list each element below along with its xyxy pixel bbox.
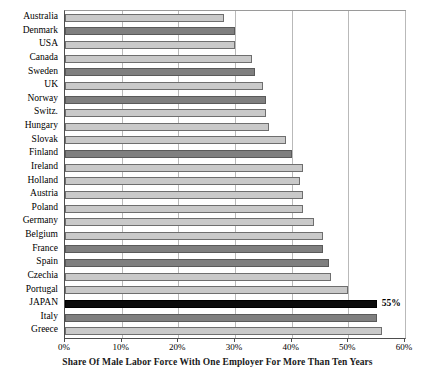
bar-row	[65, 202, 405, 216]
plot-area: 55%	[64, 10, 406, 339]
axis-tick-label: 50%	[339, 342, 356, 352]
bar-row	[65, 175, 405, 189]
bar-row	[65, 79, 405, 93]
category-label: Australia	[0, 10, 62, 24]
bar	[65, 327, 382, 335]
bar-row	[65, 106, 405, 120]
axis-tick-label: 40%	[282, 342, 299, 352]
bar-row	[65, 311, 405, 325]
bar	[65, 150, 292, 158]
bar	[65, 164, 303, 172]
bar	[65, 82, 263, 90]
category-label: Portugal	[0, 283, 62, 297]
category-label: Hungary	[0, 119, 62, 133]
bar-row	[65, 25, 405, 39]
bar-row	[65, 120, 405, 134]
category-label: Belgium	[0, 228, 62, 242]
bar	[65, 177, 300, 185]
bar-row	[65, 134, 405, 148]
bar-row: 55%	[65, 297, 405, 311]
category-label: USA	[0, 37, 62, 51]
bar	[65, 109, 266, 117]
bar	[65, 136, 286, 144]
category-label: JAPAN	[0, 296, 62, 310]
category-label: France	[0, 242, 62, 256]
bar	[65, 300, 377, 308]
bar	[65, 55, 252, 63]
bar-row	[65, 188, 405, 202]
bar-row	[65, 270, 405, 284]
axis-tick-label: 20%	[169, 342, 186, 352]
category-label: Finland	[0, 146, 62, 160]
category-label: Greece	[0, 323, 62, 337]
bar	[65, 286, 348, 294]
axis-tick-label: 0%	[58, 342, 70, 352]
bar-row	[65, 229, 405, 243]
bar-row	[65, 243, 405, 257]
bar	[65, 96, 266, 104]
bar-row	[65, 256, 405, 270]
gridline	[405, 11, 406, 338]
bar	[65, 232, 323, 240]
category-label: Austria	[0, 187, 62, 201]
category-label: Czechia	[0, 269, 62, 283]
bar	[65, 245, 323, 253]
bar-row	[65, 284, 405, 298]
category-label: Canada	[0, 51, 62, 65]
bar	[65, 123, 269, 131]
axis-tick-label: 60%	[396, 342, 413, 352]
category-label: UK	[0, 78, 62, 92]
bar-row	[65, 147, 405, 161]
axis-tick-label: 10%	[112, 342, 129, 352]
axis-title: Share Of Male Labor Force With One Emplo…	[0, 357, 435, 367]
bar	[65, 41, 235, 49]
category-label: Ireland	[0, 160, 62, 174]
category-axis-labels: AustraliaDenmarkUSACanadaSwedenUKNorwayS…	[0, 10, 62, 337]
category-label: Spain	[0, 255, 62, 269]
bar	[65, 191, 303, 199]
bar-row	[65, 161, 405, 175]
bar-row	[65, 215, 405, 229]
bar-chart: AustraliaDenmarkUSACanadaSwedenUKNorwayS…	[0, 0, 435, 385]
category-label: Slovak	[0, 133, 62, 147]
category-label: Sweden	[0, 65, 62, 79]
axis-tick-label: 30%	[226, 342, 243, 352]
bar	[65, 218, 314, 226]
bar-value-label: 55%	[382, 299, 401, 309]
category-label: Germany	[0, 214, 62, 228]
category-label: Switz.	[0, 105, 62, 119]
bar	[65, 205, 303, 213]
category-label: Holland	[0, 174, 62, 188]
bar	[65, 273, 331, 281]
category-label: Poland	[0, 201, 62, 215]
bar	[65, 27, 235, 35]
bar-row	[65, 52, 405, 66]
bar	[65, 68, 255, 76]
value-axis: 0%10%20%30%40%50%60%	[64, 338, 405, 354]
bar-series: 55%	[65, 11, 405, 338]
category-label: Norway	[0, 92, 62, 106]
category-label: Italy	[0, 310, 62, 324]
bar-row	[65, 324, 405, 338]
bar	[65, 314, 377, 322]
category-label: Denmark	[0, 24, 62, 38]
bar-row	[65, 11, 405, 25]
bar-row	[65, 93, 405, 107]
bar	[65, 259, 329, 267]
bar-row	[65, 38, 405, 52]
bar	[65, 14, 224, 22]
bar-row	[65, 66, 405, 80]
